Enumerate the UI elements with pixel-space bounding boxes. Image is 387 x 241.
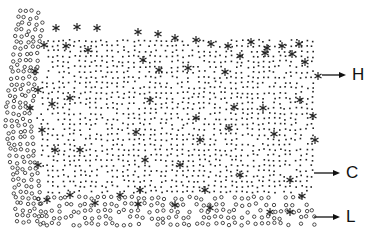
asterisk-icon: [202, 186, 209, 194]
asterisk-icon: [297, 96, 304, 104]
asterisk-icon: [135, 28, 142, 36]
asterisk-icon: [312, 136, 319, 144]
dot-region: [36, 39, 314, 194]
asterisk-icon: [260, 104, 267, 112]
asterisk-icon: [137, 186, 144, 194]
asterisk-icon: [193, 36, 200, 44]
asterisk-icon: [49, 100, 56, 108]
asterisk-icon: [155, 30, 162, 38]
asterisk-icon: [287, 176, 294, 184]
asterisk-icon: [77, 146, 84, 154]
label-H: H: [352, 66, 364, 83]
asterisk-icon: [85, 46, 92, 54]
asterisk-icon: [140, 56, 147, 64]
asterisk-icon: [147, 96, 154, 104]
asterisk-icon: [315, 72, 322, 80]
asterisk-icon: [185, 64, 192, 72]
asterisk-icon: [35, 86, 42, 94]
asterisk-icon: [53, 24, 60, 32]
particle-distribution-diagram: [0, 0, 387, 241]
asterisk-icon: [133, 128, 140, 136]
asterisk-icon: [35, 161, 42, 169]
arrowhead-icon: [333, 214, 340, 220]
arrowhead-icon: [339, 72, 346, 78]
asterisk-icon: [74, 23, 81, 31]
asterisk-icon: [271, 130, 278, 138]
asterisk-icon: [94, 24, 101, 32]
asterisk-icon: [135, 200, 142, 208]
asterisk-icon: [225, 42, 232, 50]
asterisk-icon: [310, 112, 317, 120]
asterisk-icon: [237, 171, 244, 179]
label-C: C: [346, 164, 358, 181]
asterisk-icon: [222, 68, 229, 76]
asterisk-icon: [39, 126, 46, 134]
label-L: L: [346, 208, 355, 225]
asterisk-icon: [67, 191, 74, 199]
asterisk-icon: [197, 136, 204, 144]
asterisk-icon: [63, 42, 70, 50]
label-arrows: [314, 72, 346, 220]
asterisk-icon: [41, 41, 48, 49]
asterisk-icon: [279, 42, 286, 50]
asterisk-icon: [142, 156, 149, 164]
arrowhead-icon: [333, 170, 340, 176]
